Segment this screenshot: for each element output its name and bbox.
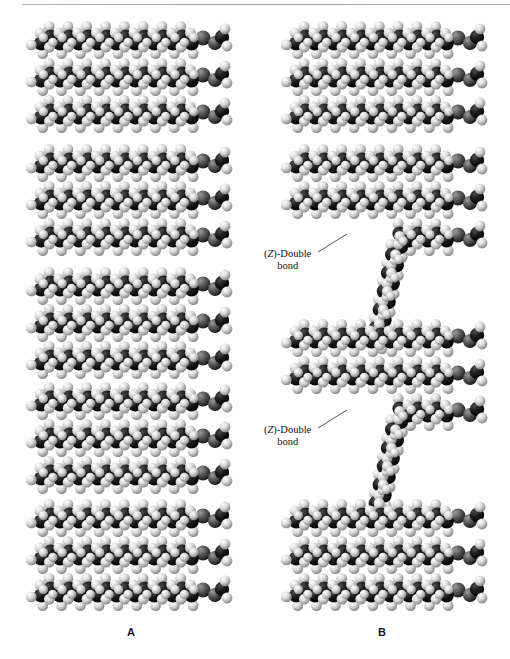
hydrogen-atom	[222, 556, 233, 567]
hydrogen-atom	[76, 431, 85, 440]
acyl-chain-saturated	[26, 267, 199, 305]
hydrogen-atom	[322, 516, 331, 525]
hydrogen-atom	[123, 198, 132, 207]
ester-head-group	[195, 539, 232, 567]
hydrogen-atom	[170, 585, 179, 594]
hydrogen-atom	[161, 473, 170, 482]
hydrogen-atom	[397, 112, 406, 121]
hydrogen-atom	[444, 585, 453, 594]
hydrogen-atom	[152, 70, 161, 79]
terminal-hydrogen-atom	[281, 40, 292, 51]
hydrogen-atom	[350, 368, 359, 377]
hydrogen-atom	[58, 511, 67, 520]
hydrogen-atom	[114, 316, 123, 325]
hydrogen-atom	[170, 70, 179, 79]
hydrogen-atom	[86, 553, 95, 562]
hydrogen-atom	[170, 230, 179, 239]
hydrogen-atom	[48, 38, 57, 47]
hydrogen-atom	[123, 112, 132, 121]
hydrogen-atom	[180, 75, 189, 84]
hydrogen-atom	[189, 548, 198, 557]
hydrogen-atom	[388, 193, 397, 202]
hydrogen-atom	[142, 399, 151, 408]
hydrogen-atom	[477, 339, 488, 350]
hydrogen-atom	[222, 361, 233, 372]
hydrogen-atom	[331, 193, 340, 202]
ester-head-group	[450, 539, 487, 567]
hydrogen-atom	[322, 38, 331, 47]
hydrogen-atom	[475, 502, 486, 513]
hydrogen-atom	[331, 585, 340, 594]
hydrogen-atom	[95, 33, 104, 42]
hydrogen-atom	[475, 147, 486, 158]
hydrogen-atom	[416, 373, 425, 382]
hydrogen-atom	[142, 590, 151, 599]
hydrogen-atom	[222, 476, 233, 487]
hydrogen-atom	[67, 473, 76, 482]
hydrogen-atom	[170, 511, 179, 520]
hydrogen-atom	[322, 553, 331, 562]
hydrogen-atom	[161, 235, 170, 244]
hydrogen-atom	[114, 230, 123, 239]
hydrogen-atom	[76, 548, 85, 557]
acyl-chain-saturated	[26, 536, 199, 574]
hydrogen-atom	[95, 279, 104, 288]
terminal-hydrogen-atom	[26, 475, 37, 486]
hydrogen-atom	[341, 373, 350, 382]
triacylglycerol-molecule	[281, 499, 488, 611]
panel-a-molecule-models	[0, 0, 255, 659]
hydrogen-atom	[161, 399, 170, 408]
hydrogen-atom	[105, 161, 114, 170]
hydrogen-atom	[170, 394, 179, 403]
terminal-hydrogen-atom	[26, 438, 37, 449]
hydrogen-atom	[133, 33, 142, 42]
hydrogen-atom	[161, 198, 170, 207]
hydrogen-atom	[114, 394, 123, 403]
hydrogen-atom	[313, 368, 322, 377]
hydrogen-atom	[477, 519, 488, 530]
hydrogen-atom	[477, 115, 488, 126]
hydrogen-atom	[294, 511, 303, 520]
hydrogen-atom	[341, 38, 350, 47]
hydrogen-atom	[369, 107, 378, 116]
hydrogen-atom	[170, 548, 179, 557]
hydrogen-atom	[86, 399, 95, 408]
terminal-hydrogen-atom	[281, 555, 292, 566]
hydrogen-atom	[170, 279, 179, 288]
hydrogen-atom	[39, 394, 48, 403]
hydrogen-atom	[170, 107, 179, 116]
hydrogen-atom	[294, 107, 303, 116]
hydrogen-atom	[350, 548, 359, 557]
hydrogen-atom	[39, 511, 48, 520]
ester-head-group	[195, 24, 232, 52]
hydrogen-atom	[152, 230, 161, 239]
hydrogen-atom	[220, 307, 231, 318]
hydrogen-atom	[331, 70, 340, 79]
hydrogen-atom	[425, 331, 434, 340]
hydrogen-atom	[220, 502, 231, 513]
hydrogen-atom	[189, 279, 198, 288]
hydrogen-atom	[435, 516, 444, 525]
hydrogen-atom	[222, 115, 233, 126]
hydrogen-atom	[220, 270, 231, 281]
ester-head-group	[450, 61, 487, 89]
hydrogen-atom	[444, 548, 453, 557]
hydrogen-atom	[189, 468, 198, 477]
hydrogen-atom	[48, 112, 57, 121]
acyl-chain-saturated	[26, 382, 199, 420]
callout-z-double-bond-2: (Z)-Double bond	[264, 424, 311, 449]
hydrogen-atom	[48, 161, 57, 170]
hydrogen-atom	[222, 41, 233, 52]
hydrogen-atom	[67, 38, 76, 47]
hydrogen-atom	[350, 585, 359, 594]
hydrogen-atom	[76, 468, 85, 477]
hydrogen-atom	[322, 161, 331, 170]
panel-label-a: A	[127, 626, 135, 638]
hydrogen-atom	[123, 399, 132, 408]
hydrogen-atom	[220, 385, 231, 396]
hydrogen-atom	[39, 107, 48, 116]
hydrogen-atom	[313, 156, 322, 165]
terminal-hydrogen-atom	[26, 237, 37, 248]
hydrogen-atom	[39, 468, 48, 477]
ester-head-group	[450, 221, 487, 249]
